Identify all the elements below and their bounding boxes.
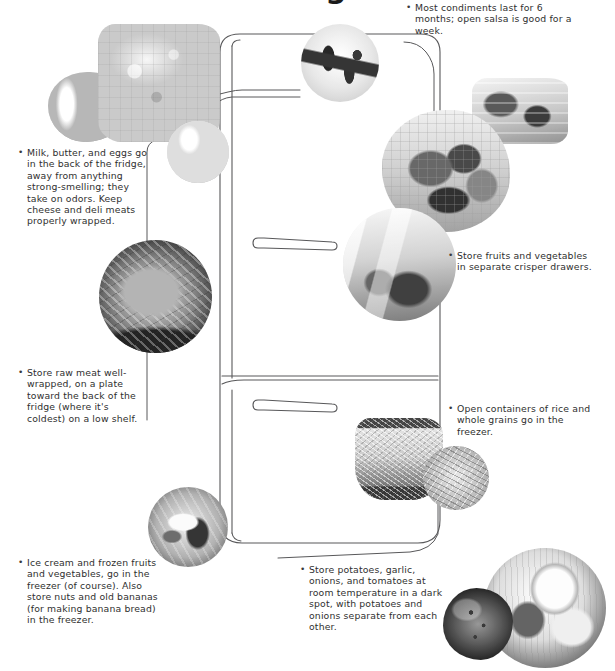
bullet-icon: • xyxy=(18,367,23,378)
note-produce: • Store fruits and vegetables in separat… xyxy=(448,250,598,273)
photo-bagged-produce xyxy=(343,208,456,321)
note-dairy-text: Milk, butter, and eggs go in the back of… xyxy=(27,147,148,227)
note-raw-meat: • Store raw meat well-wrapped, on a plat… xyxy=(18,367,150,424)
note-grains-text: Open containers of rice and whole grains… xyxy=(457,403,598,437)
door-divider-lower xyxy=(222,380,438,384)
note-produce-text: Store fruits and vegetables in separate … xyxy=(457,250,598,273)
freezer-door-edge-bottom xyxy=(232,533,241,541)
photo-eggs-and-dairy xyxy=(167,121,229,183)
note-frozen: • Ice cream and frozen fruits and vegeta… xyxy=(18,557,160,625)
note-frozen-text: Ice cream and frozen fruits and vegetabl… xyxy=(27,557,160,625)
photo-frozen-food xyxy=(148,487,228,567)
photo-potatoes xyxy=(443,588,513,660)
bullet-icon: • xyxy=(18,147,23,158)
photo-condiment-bottles xyxy=(301,24,379,102)
bullet-icon: • xyxy=(300,564,305,575)
bullet-icon: • xyxy=(18,557,23,568)
infographic-canvas: Food Storage Guide xyxy=(0,0,615,671)
connector-room-temp xyxy=(278,500,438,558)
note-room-temp: • Store potatoes, garlic, onions, and to… xyxy=(300,564,450,632)
note-room-temp-text: Store potatoes, garlic, onions, and toma… xyxy=(309,564,450,632)
freezer-handle xyxy=(253,400,337,412)
note-raw-meat-text: Store raw meat well-wrapped, on a plate … xyxy=(27,367,150,424)
bullet-icon: • xyxy=(448,250,453,261)
note-dairy: • Milk, butter, and eggs go in the back … xyxy=(18,147,148,227)
photo-whole-grains xyxy=(423,446,489,510)
note-condiments: • Most condiments last for 6 months; ope… xyxy=(406,2,581,36)
note-grains: • Open containers of rice and whole grai… xyxy=(448,403,598,437)
bullet-icon: • xyxy=(448,403,453,414)
fridge-handle xyxy=(253,238,337,250)
fridge-door-edge-top xyxy=(232,40,240,46)
photo-raw-steak xyxy=(99,240,212,353)
note-condiments-text: Most condiments last for 6 months; open … xyxy=(415,2,581,36)
bullet-icon: • xyxy=(406,2,411,13)
